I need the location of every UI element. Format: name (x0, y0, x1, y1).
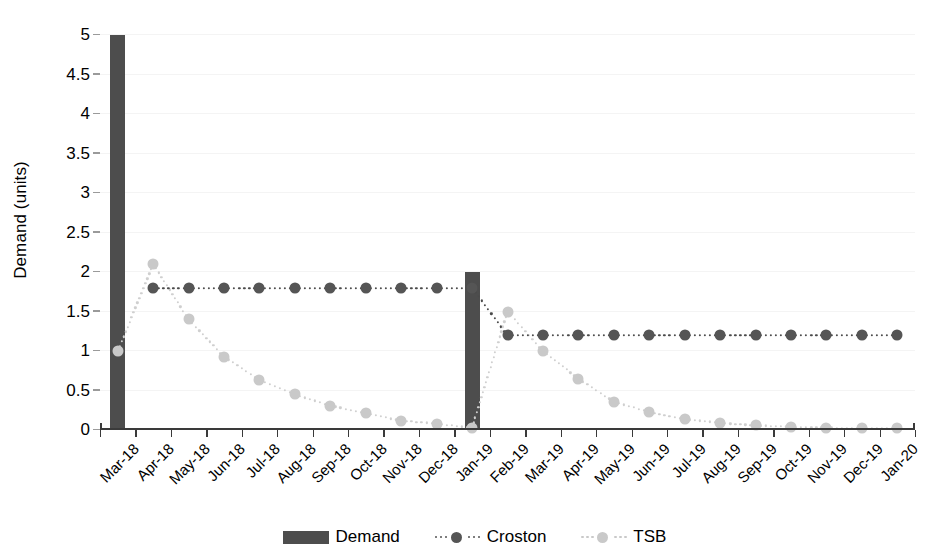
demand-bar (110, 35, 125, 430)
gridline (100, 34, 915, 35)
data-point-marker (537, 330, 548, 341)
data-point-marker (573, 373, 584, 384)
data-point-marker (431, 282, 442, 293)
x-tick-mark (454, 430, 455, 437)
y-tick-stub (93, 271, 100, 272)
y-tick-label: 0.5 (66, 381, 90, 401)
x-axis-label: Jan-19 (452, 440, 496, 484)
data-point-marker (644, 406, 655, 417)
y-axis-title: Demand (units) (6, 0, 36, 440)
y-tick-label: 2 (81, 262, 90, 282)
x-tick-mark (100, 430, 101, 437)
x-tick-mark (242, 430, 243, 437)
y-tick-stub (93, 310, 100, 311)
data-point-marker (254, 282, 265, 293)
data-point-marker (254, 375, 265, 386)
x-tick-mark (206, 430, 207, 437)
data-point-marker (537, 346, 548, 357)
data-point-marker (750, 330, 761, 341)
legend-label: Demand (336, 527, 400, 547)
legend-dot (619, 536, 621, 538)
data-point-marker (679, 413, 690, 424)
data-point-marker (148, 282, 159, 293)
x-tick-mark (171, 430, 172, 437)
x-axis-label: Jan-20 (877, 440, 921, 484)
legend-dot (591, 536, 593, 538)
x-axis-label: Nov-19 (804, 440, 850, 486)
x-tick-mark (844, 430, 845, 437)
data-point-marker (715, 330, 726, 341)
data-point-marker (502, 330, 513, 341)
y-tick-stub (93, 113, 100, 114)
x-tick-mark (135, 430, 136, 437)
x-tick-mark (277, 430, 278, 437)
legend-dot (445, 536, 447, 538)
x-axis-label: Sep-18 (308, 440, 354, 486)
data-point-marker (183, 282, 194, 293)
legend-dot (581, 536, 583, 538)
x-tick-mark (490, 430, 491, 437)
data-point-marker (148, 259, 159, 270)
gridline (100, 192, 915, 193)
x-tick-mark (313, 430, 314, 437)
chart-container: Demand (units) 00.511.522.533.544.55 Mar… (0, 0, 949, 559)
legend-dot (440, 536, 442, 538)
legend-label: Croston (487, 527, 547, 547)
legend-dot (624, 536, 626, 538)
gridline (100, 113, 915, 114)
data-point-marker (360, 282, 371, 293)
y-tick-label: 1.5 (66, 302, 90, 322)
x-axis-label: Dec-19 (840, 440, 886, 486)
data-point-marker (325, 400, 336, 411)
y-tick-label: 4 (81, 104, 90, 124)
x-tick-mark (880, 430, 881, 437)
data-point-marker (608, 330, 619, 341)
legend-dot (468, 536, 470, 538)
chart-legend: DemandCrostonTSB (0, 527, 949, 547)
data-point-marker (467, 282, 478, 293)
data-point-marker (360, 408, 371, 419)
x-axis-cap-right (913, 423, 915, 430)
x-axis-label: Sep-19 (733, 440, 779, 486)
legend-item-demand[interactable]: Demand (283, 527, 400, 547)
x-tick-mark (667, 430, 668, 437)
x-axis-label: Dec-18 (414, 440, 460, 486)
data-point-marker (396, 282, 407, 293)
x-axis-label: Feb-19 (486, 440, 532, 486)
y-tick-label: 1 (81, 341, 90, 361)
legend-marker (451, 532, 462, 543)
y-tick-stub (93, 152, 100, 153)
legend-swatch-bar (283, 531, 329, 544)
data-point-marker (573, 330, 584, 341)
data-point-marker (644, 330, 655, 341)
legend-item-tsb[interactable]: TSB (580, 527, 666, 547)
data-point-marker (856, 330, 867, 341)
gridline (100, 153, 915, 154)
data-point-marker (289, 282, 300, 293)
data-point-marker (325, 282, 336, 293)
legend-label: TSB (633, 527, 666, 547)
legend-dot (614, 536, 616, 538)
y-tick-label: 4.5 (66, 65, 90, 85)
y-axis-title-text: Demand (units) (11, 161, 31, 279)
gridline (100, 390, 915, 391)
legend-marker (597, 532, 608, 543)
data-point-marker (679, 330, 690, 341)
y-tick-stub (93, 429, 100, 430)
y-tick-stub (93, 231, 100, 232)
legend-dot (473, 536, 475, 538)
x-tick-mark (383, 430, 384, 437)
data-point-marker (289, 389, 300, 400)
data-point-marker (396, 415, 407, 426)
y-tick-label: 0 (81, 420, 90, 440)
legend-item-croston[interactable]: Croston (434, 527, 547, 547)
legend-dot (478, 536, 480, 538)
x-tick-mark (809, 430, 810, 437)
data-point-marker (219, 282, 230, 293)
x-tick-mark (915, 430, 916, 437)
data-point-marker (219, 351, 230, 362)
x-tick-mark (525, 430, 526, 437)
data-point-marker (785, 330, 796, 341)
x-tick-mark (561, 430, 562, 437)
y-tick-label: 5 (81, 25, 90, 45)
